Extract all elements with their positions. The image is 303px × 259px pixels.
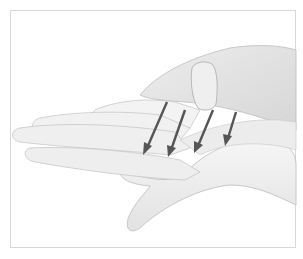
lower-hand bbox=[13, 100, 297, 231]
hands-illustration bbox=[0, 0, 303, 259]
